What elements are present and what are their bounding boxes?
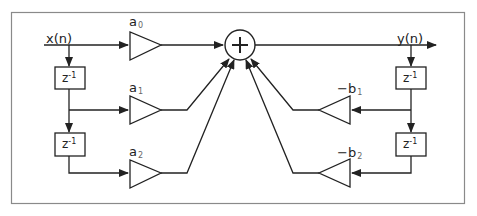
gain-a1-label: a1 <box>129 81 143 96</box>
delay-exp: -1 <box>409 71 417 80</box>
x2-to-a2-line <box>69 156 128 173</box>
gain-a0-name: a <box>129 14 137 29</box>
gain-a2-triangle <box>130 160 161 188</box>
gain-b1-sub: 1 <box>357 88 362 97</box>
input-label: x(n) <box>46 32 72 45</box>
gain-a1-triangle <box>130 96 161 124</box>
a2-to-sum-line <box>161 60 234 173</box>
gain-a2-label: a2 <box>129 145 143 160</box>
delay-y1-label: z-1 <box>403 72 417 84</box>
gain-a0-label: a0 <box>129 15 143 30</box>
gain-a1-sub: 1 <box>138 87 143 96</box>
gain-a2-name: a <box>129 144 137 159</box>
gain-b2-triangle <box>319 159 350 187</box>
gain-a0-triangle <box>130 32 161 60</box>
delay-x2-label: z-1 <box>62 138 76 150</box>
b2-to-sum-line <box>246 60 319 173</box>
b1-to-sum-line <box>251 59 319 110</box>
delay-x1-label: z-1 <box>62 72 76 84</box>
gain-b1-name: −b <box>337 81 356 96</box>
delay-exp: -1 <box>409 137 417 146</box>
gain-b1-label: −b1 <box>337 82 362 97</box>
gain-a0-sub: 0 <box>138 21 143 30</box>
delay-exp: -1 <box>68 71 76 80</box>
delay-exp: -1 <box>68 137 76 146</box>
gain-b2-label: −b2 <box>337 146 362 161</box>
gain-b2-name: −b <box>337 145 356 160</box>
a1-to-sum-line <box>161 59 229 110</box>
delay-y2-label: z-1 <box>403 138 417 150</box>
gain-a2-sub: 2 <box>138 151 143 160</box>
gain-b1-triangle <box>319 96 350 124</box>
output-label: y(n) <box>397 32 423 45</box>
gain-a1-name: a <box>129 80 137 95</box>
gain-b2-sub: 2 <box>357 152 362 161</box>
